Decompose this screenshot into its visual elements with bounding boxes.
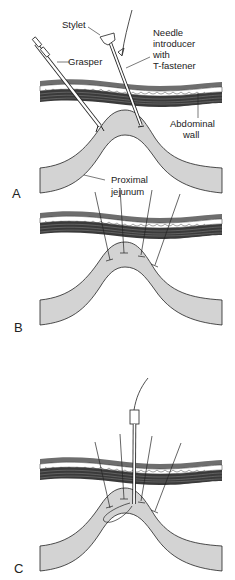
label-needle-2: introducer (153, 38, 195, 49)
label-grasper: Grasper (68, 56, 102, 67)
label-needle-4: T-fastener (153, 60, 196, 71)
label-needle-1: Needle (153, 27, 183, 38)
label-stylet: Stylet (62, 19, 86, 30)
dilator-needle (130, 378, 148, 504)
panel-label-b: B (14, 320, 23, 335)
panel-label-c: C (14, 561, 23, 576)
panel-a: Stylet Grasper Needle introducer with T-… (12, 10, 222, 201)
label-jejunum-2: jejunum (110, 186, 144, 197)
jejunostomy-diagram: Stylet Grasper Needle introducer with T-… (0, 0, 235, 580)
label-needle-3: with (152, 49, 170, 60)
panel-b: B (14, 188, 222, 335)
needle-introducer (100, 10, 144, 127)
label-abdominal-2: wall (182, 129, 199, 140)
label-jejunum-1: Proximal (111, 174, 148, 185)
panel-label-a: A (12, 186, 21, 201)
panel-c: C (14, 378, 222, 576)
label-abdominal-1: Abdominal (170, 118, 215, 129)
